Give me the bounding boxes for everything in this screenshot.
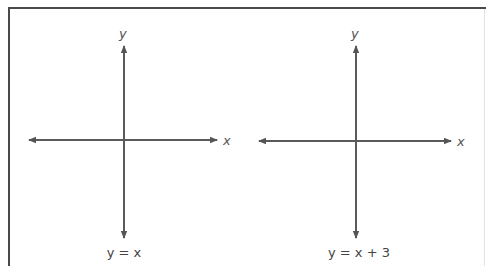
graph-2-x-label: x (457, 135, 465, 148)
coordinate-axes (0, 0, 486, 266)
graph-2-y-label: y (351, 27, 359, 40)
graph-1-y-label: y (119, 27, 127, 40)
graph-2-equation: y = x + 3 (328, 246, 390, 259)
graph-1-x-label: x (223, 134, 231, 147)
graph-1-equation: y = x (107, 246, 142, 259)
graph-2-axes (259, 46, 451, 238)
graph-1-axes (29, 46, 217, 238)
